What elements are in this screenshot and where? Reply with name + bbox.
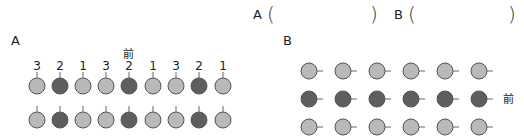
- player-circle-light: [301, 119, 317, 135]
- player-circle-dark: [121, 112, 137, 128]
- player-circle-dark: [52, 112, 68, 128]
- player-circle-light: [369, 63, 385, 79]
- diagram-canvas: [0, 0, 524, 136]
- player-circle-light: [168, 78, 184, 94]
- player-circle-dark: [437, 91, 453, 107]
- player-circle-light: [301, 63, 317, 79]
- player-circle-light: [98, 78, 114, 94]
- player-circle-light: [168, 112, 184, 128]
- player-circle-light: [75, 78, 91, 94]
- player-circle-light: [335, 119, 351, 135]
- player-circle-light: [29, 78, 45, 94]
- player-circle-dark: [301, 91, 317, 107]
- player-circle-light: [29, 112, 45, 128]
- player-circle-light: [403, 63, 419, 79]
- player-circle-light: [335, 63, 351, 79]
- player-circle-light: [437, 119, 453, 135]
- player-circle-light: [145, 78, 161, 94]
- player-circle-light: [369, 119, 385, 135]
- player-circle-light: [215, 78, 231, 94]
- player-circle-light: [75, 112, 91, 128]
- player-circle-light: [98, 112, 114, 128]
- player-circle-dark: [369, 91, 385, 107]
- player-circle-dark: [471, 91, 487, 107]
- player-circle-light: [145, 112, 161, 128]
- player-circle-dark: [52, 78, 68, 94]
- player-circle-dark: [403, 91, 419, 107]
- player-circle-dark: [191, 78, 207, 94]
- player-circle-dark: [121, 78, 137, 94]
- player-circle-light: [471, 63, 487, 79]
- player-circle-light: [215, 112, 231, 128]
- player-circle-light: [403, 119, 419, 135]
- player-circle-light: [437, 63, 453, 79]
- player-circle-dark: [191, 112, 207, 128]
- player-circle-light: [471, 119, 487, 135]
- player-circle-dark: [335, 91, 351, 107]
